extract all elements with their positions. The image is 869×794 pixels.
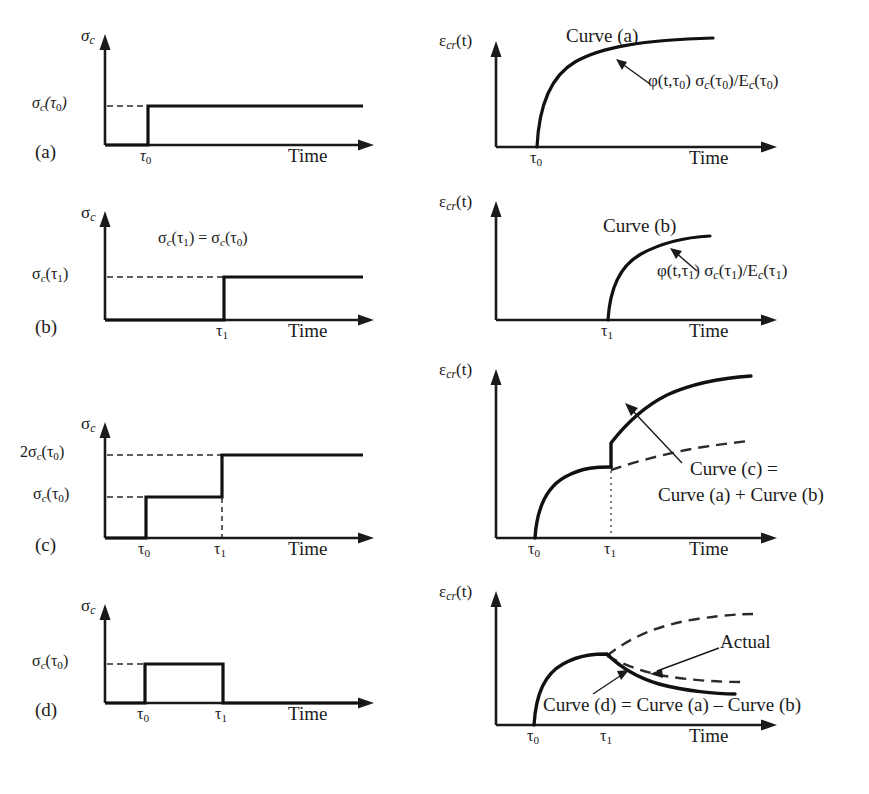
formula-label-a: φ(t,τ0) σc(τ0)/Ec(τ0) (648, 72, 778, 92)
actual-arrowhead (650, 669, 663, 678)
x-tick-label-tau0: τ0 (530, 150, 542, 168)
x-axis-arrowhead (761, 533, 777, 544)
panel-d-right-plot (435, 570, 869, 760)
x-axis-label: Time (288, 146, 327, 165)
x-tick-label-tau0: τ0 (137, 706, 149, 724)
y-axis-label: εcr(t) (439, 361, 472, 381)
x-tick-label-tau1: τ1 (604, 541, 616, 559)
panel-a-left-plot (0, 0, 435, 180)
panel-a-right: εcr(t) Curve (a) φ(t,τ0) σc(τ0)/Ec(τ0) τ… (435, 0, 869, 180)
actual-arrow-line (657, 648, 719, 671)
formula-arrowhead (616, 59, 627, 70)
row-tag-d: (d) (35, 700, 57, 719)
row-tag-b: (b) (35, 317, 57, 336)
x-tick-label-tau0: τ0 (138, 541, 150, 559)
y-tick-label: σc(τ1) (32, 266, 68, 284)
curve-c-arrow-line (631, 409, 682, 463)
row-tag-c: (c) (35, 535, 56, 554)
stress-double-step-curve (105, 455, 363, 538)
row-tag-a: (a) (35, 142, 56, 161)
panel-c-left: σc 2σc(τ0) σc(τ0) τ0 τ1 Time (c) (0, 355, 435, 570)
panel-c-left-plot (0, 355, 435, 570)
panel-d-left: σc σc(τ0) τ0 τ1 Time (d) (0, 570, 435, 760)
x-axis-label: Time (689, 148, 728, 167)
formula-arrow-line (621, 63, 650, 84)
stress-pulse-curve (105, 664, 363, 703)
curve-label-b: Curve (b) (603, 216, 676, 235)
curve-d-arrow-line (593, 674, 623, 694)
curve-label-c-line2: Curve (a) + Curve (b) (658, 485, 824, 504)
creep-superposition-figure: σc σc(τ0) τ0 Time (a) εcr(t) Curve (a) φ… (0, 0, 869, 794)
x-axis-arrowhead (358, 533, 374, 544)
y-axis-arrowhead (491, 201, 502, 217)
x-tick-label-tau0: τ0 (140, 148, 151, 166)
y-axis-label: εcr(t) (439, 193, 472, 213)
y-axis-arrowhead (491, 591, 502, 607)
x-tick-label-tau0: τ0 (528, 541, 540, 559)
stress-step-curve (105, 277, 363, 320)
curve-c-before-tau1 (535, 467, 611, 538)
stress-equality-label: σc(τ1) = σc(τ0) (158, 230, 248, 248)
x-axis-arrowhead (358, 140, 374, 151)
y-axis-arrowhead (491, 41, 502, 57)
y-axis-arrowhead (100, 34, 111, 50)
x-axis-arrowhead (761, 142, 777, 153)
panel-c-right-plot (435, 355, 869, 570)
x-tick-label-tau1: τ1 (601, 323, 613, 341)
panel-b-right: εcr(t) Curve (b) φ(t,τ1) σc(τ1)/Ec(τ1) τ… (435, 180, 869, 355)
x-tick-label-tau0: τ0 (527, 728, 539, 746)
x-tick-label-tau1: τ1 (600, 728, 612, 746)
x-axis-label: Time (288, 539, 327, 558)
panel-c-right: εcr(t) Curve (c) = Curve (a) + Curve (b)… (435, 355, 869, 570)
creep-curve-a (537, 38, 713, 147)
y-axis-arrowhead (100, 211, 111, 227)
curve-label-d: Curve (d) = Curve (a) – Curve (b) (543, 695, 801, 714)
x-axis-label: Time (689, 321, 728, 340)
x-axis-label: Time (288, 704, 327, 723)
y-axis-label: σc (81, 27, 95, 47)
x-axis-arrowhead (358, 315, 374, 326)
y-tick-label: σc(τ0) (32, 95, 67, 113)
curve-c-after-tau1 (611, 376, 751, 467)
y-axis-arrowhead (100, 422, 111, 438)
curve-d-arrowhead (617, 670, 629, 680)
panel-b-right-plot (435, 180, 869, 355)
actual-label: Actual (720, 632, 771, 651)
x-axis-label: Time (288, 321, 327, 340)
y-tick-label: σc(τ0) (32, 653, 68, 671)
x-tick-label-tau1: τ1 (214, 541, 226, 559)
formula-label-b: φ(t,τ1) σc(τ1)/Ec(τ1) (657, 262, 787, 282)
x-axis-label: Time (689, 539, 728, 558)
y-axis-label: σc (81, 415, 95, 435)
stress-step-curve (105, 106, 363, 145)
x-axis-label: Time (689, 726, 728, 745)
y-axis-label: εcr(t) (439, 583, 472, 603)
x-axis-arrowhead (761, 720, 777, 731)
y-axis-label: εcr(t) (439, 32, 472, 52)
panel-b-left: σc σc(τ1) σc(τ1) = σc(τ0) τ1 Time (b) (0, 180, 435, 355)
y-tick-label-sigma: σc(τ0) (33, 486, 69, 504)
curve-label-c-line1: Curve (c) = (690, 459, 778, 478)
curve-label-a: Curve (a) (566, 26, 638, 45)
y-axis-label: σc (81, 204, 95, 224)
y-axis-arrowhead (491, 369, 502, 385)
panel-a-left: σc σc(τ0) τ0 Time (a) (0, 0, 435, 180)
y-axis-label: σc (81, 597, 95, 617)
x-tick-label-tau1: τ1 (215, 706, 227, 724)
x-tick-label-tau1: τ1 (216, 323, 228, 341)
y-axis-arrowhead (100, 604, 111, 620)
x-axis-arrowhead (761, 315, 777, 326)
y-tick-label-2sigma: 2σc(τ0) (20, 444, 64, 462)
panel-d-right: εcr(t) Actual Curve (d) = Curve (a) – Cu… (435, 570, 869, 760)
